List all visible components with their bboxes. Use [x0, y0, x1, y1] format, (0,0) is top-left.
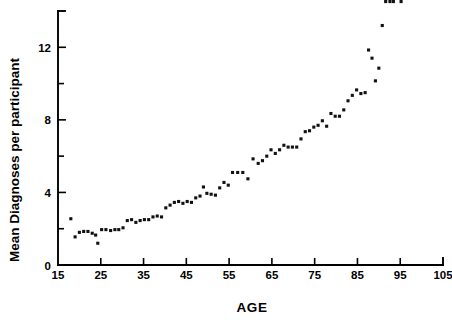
- data-point: [104, 228, 107, 231]
- data-point: [96, 242, 99, 245]
- data-point: [334, 115, 337, 118]
- y-axis-label: Mean Diagnoses per participant: [7, 57, 22, 262]
- data-point: [143, 218, 146, 221]
- x-tick-label: 75: [308, 269, 321, 281]
- data-point: [325, 125, 328, 128]
- x-tick-label: 45: [180, 269, 193, 281]
- x-tick-label: 35: [137, 269, 150, 281]
- data-point: [338, 115, 341, 118]
- data-point: [139, 219, 142, 222]
- data-point: [392, 0, 395, 3]
- data-point: [86, 230, 89, 233]
- data-point: [346, 99, 349, 102]
- data-point: [257, 162, 260, 165]
- data-point: [236, 171, 239, 174]
- data-point: [265, 155, 268, 158]
- data-point: [377, 67, 380, 70]
- data-point: [278, 148, 281, 151]
- x-tick-label: 85: [351, 269, 364, 281]
- data-point: [210, 193, 213, 196]
- data-point: [351, 94, 354, 97]
- data-point: [374, 79, 377, 82]
- data-point: [100, 228, 103, 231]
- data-point: [291, 146, 294, 149]
- data-point: [194, 196, 197, 199]
- data-point: [198, 195, 201, 198]
- data-point: [261, 159, 264, 162]
- data-point: [381, 24, 384, 27]
- data-point: [231, 171, 234, 174]
- data-point: [321, 119, 324, 122]
- data-point: [388, 0, 391, 3]
- data-point: [299, 137, 302, 140]
- data-point: [134, 221, 137, 224]
- data-point: [222, 181, 225, 184]
- data-point: [177, 200, 180, 203]
- data-point: [359, 92, 362, 95]
- data-point: [312, 126, 315, 129]
- data-point: [202, 185, 205, 188]
- data-point: [181, 202, 184, 205]
- data-point: [205, 192, 208, 195]
- y-tick-marks: [58, 47, 66, 228]
- data-point: [227, 184, 230, 187]
- x-tick-label: 15: [52, 269, 65, 281]
- data-point: [121, 226, 124, 229]
- data-point: [364, 91, 367, 94]
- data-point-group: [69, 0, 402, 245]
- plot-canvas: Mean Diagnoses per participant AGE 04812…: [0, 0, 452, 321]
- data-point: [269, 148, 272, 151]
- data-point: [173, 201, 176, 204]
- x-tick-label: 65: [265, 269, 278, 281]
- data-point: [308, 129, 311, 132]
- data-point: [400, 0, 403, 3]
- data-point: [214, 194, 217, 197]
- data-point: [370, 57, 373, 60]
- data-point: [342, 108, 345, 111]
- x-tick-label: 55: [223, 269, 236, 281]
- data-point: [186, 200, 189, 203]
- y-tick-label: 4: [45, 187, 52, 199]
- x-tick-label: 25: [94, 269, 107, 281]
- data-point: [69, 217, 72, 220]
- x-tick-label: 95: [394, 269, 407, 281]
- data-point: [160, 215, 163, 218]
- data-point: [130, 218, 133, 221]
- y-tick-label: 0: [45, 260, 51, 272]
- data-point: [169, 204, 172, 207]
- data-point: [329, 112, 332, 115]
- data-point: [91, 232, 94, 235]
- data-point: [246, 177, 249, 180]
- data-point: [295, 146, 298, 149]
- data-point: [282, 144, 285, 147]
- data-point: [164, 206, 167, 209]
- data-point: [113, 228, 116, 231]
- data-point: [94, 234, 97, 237]
- x-axis-label: AGE: [236, 300, 267, 315]
- data-point: [384, 0, 387, 3]
- scatter-chart-figure: Mean Diagnoses per participant AGE 04812…: [0, 0, 452, 321]
- data-point: [117, 228, 120, 231]
- y-tick-label: 8: [45, 114, 52, 126]
- data-point: [274, 152, 277, 155]
- y-tick-labels: 04812: [38, 42, 51, 272]
- data-point: [287, 146, 290, 149]
- data-point: [304, 130, 307, 133]
- data-point: [82, 230, 85, 233]
- x-tick-labels: 152535455565758595105: [52, 269, 452, 281]
- data-point: [367, 48, 370, 51]
- data-point: [109, 229, 112, 232]
- data-point: [355, 88, 358, 91]
- data-point: [190, 201, 193, 204]
- data-point: [126, 219, 129, 222]
- data-point: [241, 171, 244, 174]
- y-tick-label: 12: [38, 42, 51, 54]
- data-point: [147, 218, 150, 221]
- data-point: [156, 214, 159, 217]
- data-point: [218, 186, 221, 189]
- data-point: [78, 231, 81, 234]
- x-tick-label: 105: [433, 269, 452, 281]
- x-tick-marks: [101, 258, 400, 265]
- data-point: [74, 235, 77, 238]
- data-point: [151, 215, 154, 218]
